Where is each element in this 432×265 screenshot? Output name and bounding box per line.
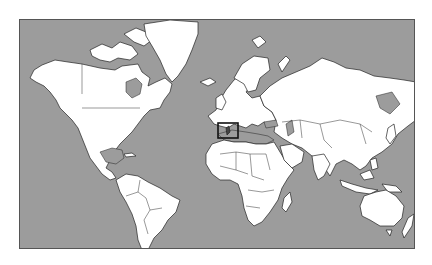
indonesia (340, 170, 378, 194)
continent-africa (206, 140, 294, 226)
caribbean-islands (124, 153, 136, 157)
iceland (200, 78, 216, 86)
continent-south-america (116, 174, 180, 249)
map-canvas (20, 20, 415, 249)
greenland (144, 20, 198, 82)
continent-australia (360, 190, 404, 226)
philippines (370, 158, 378, 170)
novaya-zemlya (278, 56, 290, 72)
madagascar (282, 192, 292, 212)
tasmania (386, 230, 392, 236)
continent-north-america (30, 60, 172, 180)
new-zealand (402, 214, 414, 238)
svalbard (252, 36, 266, 48)
world-map (19, 19, 415, 249)
arctic-islands (90, 42, 138, 62)
